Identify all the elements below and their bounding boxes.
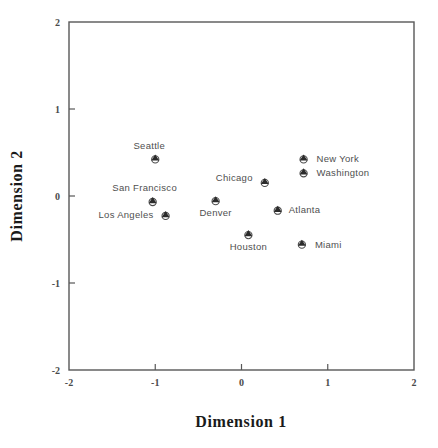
x-tick-label: 0: [239, 377, 244, 388]
data-point-label: San Francisco: [112, 182, 177, 193]
data-point-label: Seattle: [133, 140, 165, 151]
y-tick-label: 1: [55, 104, 60, 115]
y-tick-label: 2: [55, 17, 60, 28]
x-axis-title: Dimension 1: [195, 413, 287, 430]
data-point-label: Miami: [315, 239, 342, 250]
y-tick-label: -2: [52, 365, 60, 376]
data-point-label: Los Angeles: [99, 209, 154, 220]
scatter-plot-figure: -2-1012 -2-1012 SeattleSan FranciscoLos …: [0, 0, 438, 448]
x-tick-label: 2: [412, 377, 417, 388]
x-tick-label: -2: [65, 377, 73, 388]
data-point-label: Atlanta: [289, 204, 321, 215]
data-point-label: Chicago: [216, 172, 253, 183]
plot-canvas: -2-1012 -2-1012 SeattleSan FranciscoLos …: [0, 0, 438, 448]
y-tick-label: 0: [55, 191, 60, 202]
data-point-label: New York: [317, 153, 360, 164]
y-tick-label: -1: [52, 278, 60, 289]
data-point-label: Denver: [199, 207, 231, 218]
x-tick-label: 1: [325, 377, 330, 388]
x-tick-label: -1: [151, 377, 159, 388]
data-point-label: Washington: [317, 167, 370, 178]
data-point-label: Houston: [230, 241, 267, 252]
y-axis-title: Dimension 2: [8, 150, 25, 242]
